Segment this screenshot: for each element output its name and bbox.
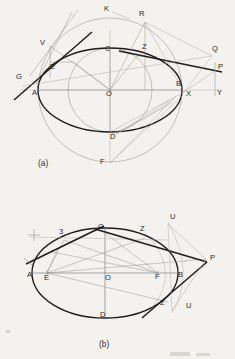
radius-o-e-aux	[74, 62, 110, 90]
label-x: X	[186, 89, 191, 98]
line-f-to-upper-right	[110, 95, 183, 163]
figure-a: K R V C Z Q E P G B A O X Y D F (a)	[14, 4, 223, 168]
label-k: K	[104, 4, 109, 13]
label-c: C	[105, 44, 111, 53]
line-f-curve-1	[113, 100, 170, 136]
ray-f-to-s	[64, 240, 158, 273]
label-b: B	[176, 79, 181, 88]
arc-near-d	[112, 99, 174, 134]
label-y: Y	[217, 88, 222, 97]
tangent-at-s	[26, 226, 104, 264]
label-f: F	[100, 157, 105, 166]
tangent-lower-z-to-p	[142, 262, 207, 318]
tangent-right-to-p	[119, 51, 222, 72]
label-e: E	[50, 62, 55, 71]
drawing-sheet: K R V C Z Q E P G B A O X Y D F (a)	[0, 0, 235, 359]
radius-o-z	[110, 56, 137, 90]
line-r-to-q	[145, 22, 212, 56]
label-v: V	[40, 38, 46, 47]
label-a: A	[32, 88, 38, 97]
radius-o-v	[50, 46, 110, 90]
caption-figure-a: (a)	[38, 158, 48, 168]
label-b-b: B	[178, 270, 183, 279]
figure-a-labels: K R V C Z Q E P G B A O X Y D F	[16, 4, 223, 166]
label-d-b: D	[100, 310, 106, 319]
line-u-to-u-vertical	[168, 224, 172, 311]
label-p: P	[218, 62, 223, 71]
label-s-b: 3	[59, 227, 63, 236]
caption-figure-b: (b)	[99, 339, 109, 349]
label-e-b: E	[44, 273, 49, 282]
label-d: D	[110, 132, 116, 141]
label-z: Z	[142, 42, 147, 51]
tangent-at-z-to-p	[95, 229, 207, 262]
ray-e-to-z	[47, 238, 145, 273]
label-a-b: A	[27, 270, 33, 279]
label-c-b: C	[98, 222, 104, 231]
construction-line-v-upper-2	[36, 12, 72, 84]
label-z-top: Z	[140, 224, 145, 233]
label-r: R	[139, 9, 145, 18]
figure-b: U C 3 Z P A E O F B Z U D (b)	[24, 212, 215, 349]
long-line-to-tick	[30, 237, 168, 240]
label-g: G	[16, 72, 22, 81]
label-u-top: U	[170, 212, 176, 221]
label-o: O	[106, 89, 112, 98]
label-q: Q	[212, 44, 218, 53]
line-u-top-to-p	[168, 224, 206, 259]
label-o-b: O	[105, 273, 111, 282]
label-p-b: P	[210, 253, 215, 262]
label-z-bottom: Z	[160, 298, 165, 307]
label-f-b: F	[155, 272, 160, 281]
label-u-bottom: U	[186, 301, 192, 310]
line-q-to-x	[184, 56, 212, 92]
